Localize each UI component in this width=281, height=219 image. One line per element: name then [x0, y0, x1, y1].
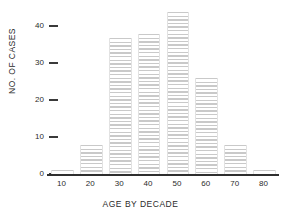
x-axis-tick-label: 60 [191, 179, 221, 188]
x-axis-tick-label: 10 [46, 179, 76, 188]
bar [167, 12, 190, 174]
plot-area [47, 8, 278, 174]
y-axis-title: NO. OF CASES [7, 11, 17, 111]
x-axis-tick-label: 30 [104, 179, 134, 188]
x-axis-tick-label: 50 [162, 179, 192, 188]
y-axis-tick-label: 0 [40, 169, 44, 179]
bar [224, 145, 247, 175]
y-axis-tick-label: 40 [35, 21, 44, 31]
x-axis-tick-label: 70 [220, 179, 250, 188]
x-axis-tick-label: 80 [249, 179, 279, 188]
x-axis-tick-label: 40 [133, 179, 163, 188]
bar [195, 78, 218, 174]
bar [138, 34, 161, 174]
y-axis-tick-label: 10 [35, 132, 44, 142]
y-axis-tick-label: 20 [35, 95, 44, 105]
x-axis-line [47, 174, 279, 176]
x-axis-tick-label: 20 [75, 179, 105, 188]
bar [80, 145, 103, 175]
bar-chart: NO. OF CASES 010203040 1020304050607080 … [0, 0, 281, 219]
bar [109, 38, 132, 174]
x-axis-title: AGE BY DECADE [0, 199, 281, 209]
y-axis-tick-label: 30 [35, 58, 44, 68]
